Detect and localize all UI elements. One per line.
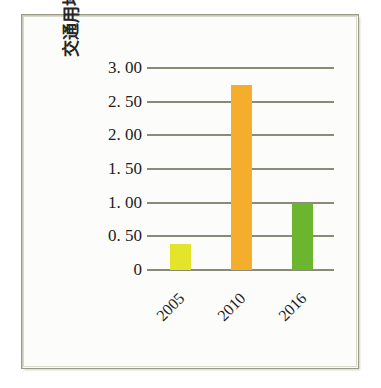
cropped-caption (60, 376, 320, 385)
bar-chart: 交通用地面积比重/% 3. 002. 502. 001. 501. 000. 5… (0, 0, 381, 388)
bar-2005 (170, 244, 191, 270)
bars-group (0, 0, 381, 388)
bar-2016 (292, 203, 313, 270)
figure-page: 交通用地面积比重/% 3. 002. 502. 001. 501. 000. 5… (0, 0, 381, 388)
bar-2010 (231, 85, 252, 270)
